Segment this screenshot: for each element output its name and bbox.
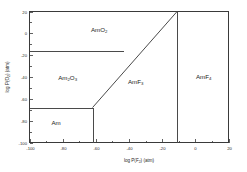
oxide-fluoride-diagonal [93,12,178,108]
phase-region-labels: AmO2Am2O3AmAmF3AmF4 [51,26,212,126]
phase-diagram-figure: -100-80-60-40-20020 -100-80-60-40-20020 … [0,0,247,172]
y-tick-label: -80 [21,119,28,124]
phase-label-Am2O3: Am2O3 [58,74,78,82]
y-axis-ticks: -100-80-60-40-20020 [19,10,33,146]
x-tick-label: 20 [227,146,232,151]
y-tick-label: -20 [21,53,28,58]
y-tick-label: -100 [19,141,28,146]
x-tick-label: -40 [126,146,133,151]
phase-label-Am: Am [51,119,60,126]
x-axis-ticks: -100-80-60-40-20020 [26,139,232,151]
y-tick-label: -40 [21,75,28,80]
x-tick-label: -100 [26,146,35,151]
phase-diagram-svg: -100-80-60-40-20020 -100-80-60-40-20020 … [0,0,247,172]
x-axis-title: log P(F2) (atm) [124,158,155,164]
x-tick-label: -60 [93,146,100,151]
phase-label-AmO2: AmO2 [91,26,108,34]
x-tick-label: -80 [60,146,67,151]
x-tick-label: -20 [159,146,166,151]
x-tick-label: 0 [194,146,197,151]
phase-label-AmF4: AmF4 [196,73,212,81]
y-tick-label: 20 [22,10,27,15]
phase-label-AmF3: AmF3 [128,78,144,86]
y-tick-label: -60 [21,97,28,102]
y-tick-label: 0 [25,31,28,36]
y-axis-title: log P(O2) (atm) [5,61,11,92]
